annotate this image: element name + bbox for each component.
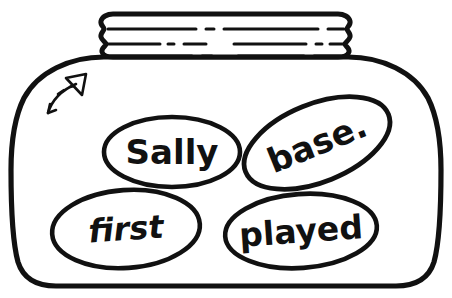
jar-lid-group — [101, 14, 350, 57]
word-label-sally: Sally — [126, 132, 219, 172]
word-label-first: first — [87, 207, 166, 250]
jar-lid-outline — [101, 14, 350, 57]
word-bubble-sally[interactable]: Sally — [104, 117, 240, 187]
jar-of-words-drawing: first played base. Sally — [0, 0, 452, 298]
illustration-canvas: first played base. Sally — [0, 0, 452, 298]
